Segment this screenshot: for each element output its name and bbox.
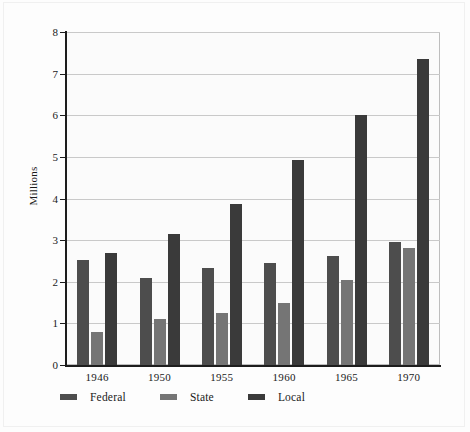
bar-series-container: [66, 32, 440, 365]
legend-label: Local: [278, 391, 305, 403]
chart-legend: FederalStateLocal: [60, 391, 339, 403]
y-tick-label: 5: [6, 151, 58, 162]
y-tick-label: 1: [6, 318, 58, 329]
bar-state-1950: [154, 319, 166, 365]
bar-state-1955: [216, 313, 228, 365]
x-tick-label-1960: 1960: [254, 371, 314, 383]
legend-swatch-federal-icon: [60, 394, 77, 400]
bar-local-1970: [417, 59, 429, 365]
x-axis-ticks: 194619501955196019651970: [66, 371, 440, 389]
legend-swatch-local-icon: [248, 394, 265, 400]
bar-federal-1946: [77, 260, 89, 365]
y-tick-label: 0: [6, 360, 58, 371]
y-tick-label: 7: [6, 68, 58, 79]
bar-federal-1960: [264, 263, 276, 365]
y-tick-label: 3: [6, 235, 58, 246]
x-axis-line: [65, 365, 441, 367]
bar-local-1960: [292, 160, 304, 365]
chart-page: Millions 012345678 194619501955196019651…: [0, 0, 470, 432]
x-tick-label-1965: 1965: [317, 371, 377, 383]
bar-state-1965: [341, 280, 353, 365]
legend-item-local[interactable]: Local: [248, 391, 305, 403]
x-tick-label-1955: 1955: [192, 371, 252, 383]
bar-state-1960: [278, 303, 290, 365]
x-tick-label-1950: 1950: [130, 371, 190, 383]
legend-label: State: [190, 391, 214, 403]
legend-label: Federal: [90, 391, 126, 403]
bar-federal-1965: [327, 256, 339, 365]
y-tick-label: 4: [6, 193, 58, 204]
bar-local-1946: [105, 253, 117, 365]
bar-federal-1970: [389, 242, 401, 365]
bar-federal-1955: [202, 268, 214, 365]
x-tick-label-1946: 1946: [67, 371, 127, 383]
y-tick-label: 6: [6, 110, 58, 121]
bar-local-1955: [230, 204, 242, 366]
legend-swatch-state-icon: [160, 394, 177, 400]
y-axis-ticks: 012345678: [0, 0, 58, 432]
bar-local-1965: [355, 115, 367, 365]
legend-item-state[interactable]: State: [160, 391, 214, 403]
y-tick-label: 8: [6, 27, 58, 38]
legend-item-federal[interactable]: Federal: [60, 391, 126, 403]
bar-local-1950: [168, 234, 180, 365]
bar-state-1946: [91, 332, 103, 365]
x-tick-label-1970: 1970: [379, 371, 439, 383]
bar-state-1970: [403, 248, 415, 365]
y-tick-label: 2: [6, 276, 58, 287]
bar-federal-1950: [140, 278, 152, 365]
